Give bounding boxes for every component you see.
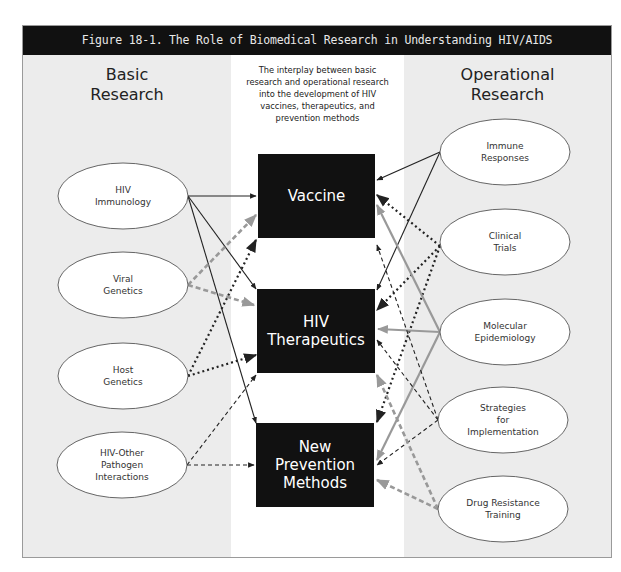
node-hiv-other-pathogen[interactable]: HIV-Other Pathogen Interactions [57,432,187,498]
box-vaccine[interactable]: Vaccine [258,154,375,238]
node-label: Strategies [480,403,526,413]
edge-clinical-trials-to-hiv-therapeutics [377,246,440,310]
node-label: Clinical [489,231,521,241]
node-label: Molecular [483,321,527,331]
node-hiv-immunology[interactable]: HIV Immunology [58,163,188,229]
node-label: Drug Resistance [466,498,540,508]
node-label: Responses [481,153,529,163]
node-label: Interactions [95,472,149,482]
node-strategies-implementation[interactable]: Strategies for Implementation [438,387,568,453]
outcome-boxes: Vaccine HIV Therapeutics New Prevention … [256,154,375,507]
edge-host-genetics-to-vaccine [188,240,256,376]
edge-viral-genetics-to-hiv-therapeutics [188,285,254,305]
edge-hiv-immunology-to-hiv-therapeutics [188,196,256,289]
node-label: Training [484,510,521,520]
node-label: HIV-Other [100,448,144,458]
node-immune-responses[interactable]: Immune Responses [440,119,570,185]
node-label: HIV [115,185,131,195]
edge-immune-responses-to-vaccine [377,152,440,180]
node-label: Implementation [467,427,538,437]
edge-hiv-immunology-to-new-prevention-methods [188,196,256,423]
box-label: Vaccine [288,187,346,205]
box-label: Prevention [275,456,355,474]
edge-clinical-trials-to-vaccine [377,195,440,246]
box-new-prevention-methods[interactable]: New Prevention Methods [256,423,374,507]
node-viral-genetics[interactable]: Viral Genetics [58,252,188,318]
node-label: Immune [486,141,524,151]
box-hiv-therapeutics[interactable]: HIV Therapeutics [257,289,375,373]
node-host-genetics[interactable]: Host Genetics [58,343,188,409]
node-drug-resistance-training[interactable]: Drug Resistance Training [438,476,568,542]
box-label: Therapeutics [266,331,365,349]
box-label: HIV [303,313,330,331]
node-label: Genetics [103,286,143,296]
basic-research-nodes: HIV Immunology Viral Genetics Host Genet… [57,163,188,498]
node-label: Immunology [95,197,152,207]
box-label: Methods [283,474,347,492]
node-label: Epidemiology [475,333,537,343]
operational-research-nodes: Immune Responses Clinical Trials Molecul… [438,119,570,542]
node-label: Viral [113,274,133,284]
node-label: Trials [492,243,516,253]
node-label: Host [113,365,134,375]
edge-host-genetics-to-hiv-therapeutics [188,355,256,376]
edge-strategies-implementation-to-hiv-therapeutics [377,340,438,420]
node-molecular-epidemiology[interactable]: Molecular Epidemiology [440,299,570,365]
node-label: for [497,415,510,425]
node-label: Pathogen [101,460,143,470]
node-label: Genetics [103,377,143,387]
box-label: New [299,438,332,456]
node-clinical-trials[interactable]: Clinical Trials [440,209,570,275]
edge-molecular-epidemiology-to-hiv-therapeutics [378,329,440,332]
diagram-canvas: HIV Immunology Viral Genetics Host Genet… [0,0,621,572]
edge-drug-resistance-training-to-new-prevention-methods [377,480,438,509]
